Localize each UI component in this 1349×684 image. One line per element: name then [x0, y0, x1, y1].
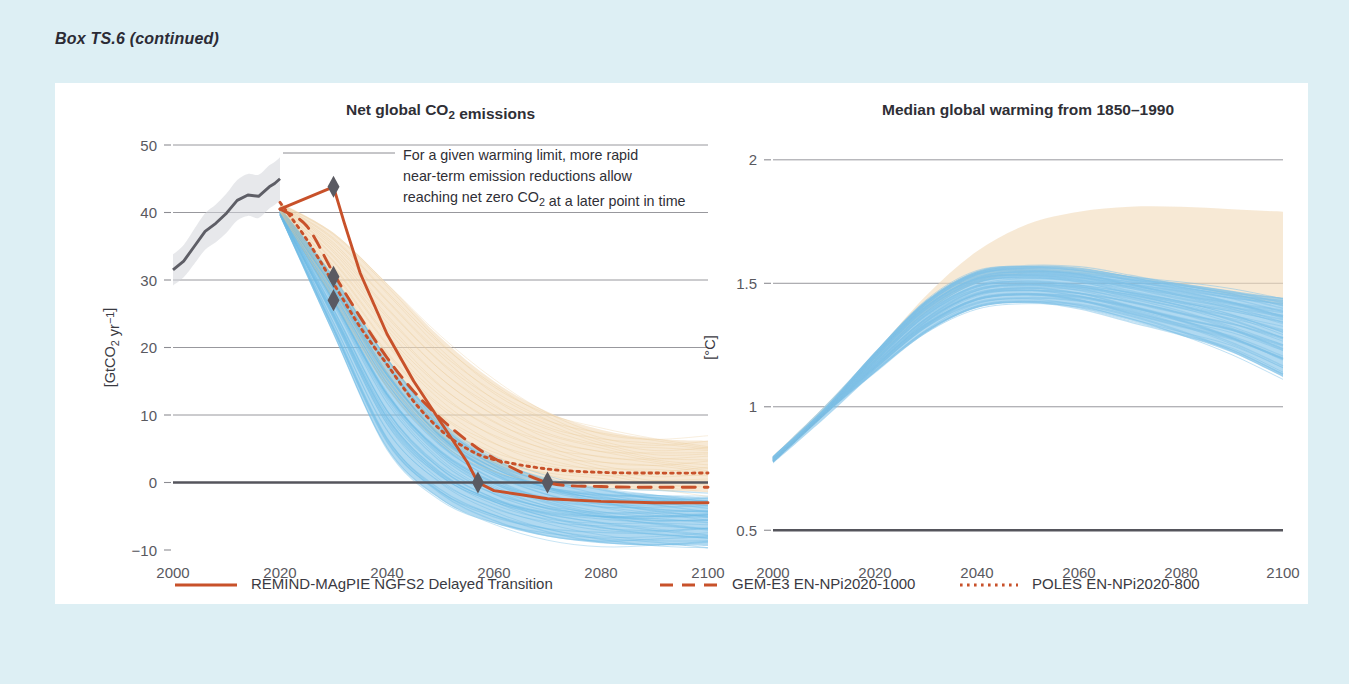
box-label: Box TS.6 (continued) [55, 30, 219, 48]
legend: REMIND-MAgPIE NGFS2 Delayed TransitionGE… [175, 575, 1200, 592]
figure-svg: Net global CO2 emissions−100102030405020… [55, 83, 1308, 604]
chart-title: Net global CO2 emissions [346, 101, 535, 122]
x-tick-label: 2040 [960, 564, 993, 581]
y-tick-label: 40 [140, 204, 157, 221]
warming-trajectory [773, 283, 1283, 458]
figure-panel: Net global CO2 emissions−100102030405020… [55, 83, 1308, 604]
net-zero-marker [328, 176, 340, 198]
x-tick-label: 2080 [584, 564, 617, 581]
annotation-line: near-term emission reductions allow [403, 168, 633, 184]
y-tick-label: 0 [149, 474, 157, 491]
historical-uncertainty-band [173, 157, 280, 285]
legend-label: GEM-E3 EN-NPi2020-1000 [732, 575, 915, 592]
annotation-line: reaching net zero CO2 at a later point i… [403, 189, 686, 209]
y-tick-label: 20 [140, 339, 157, 356]
legend-label: REMIND-MAgPIE NGFS2 Delayed Transition [251, 575, 553, 592]
x-tick-label: 2100 [1266, 564, 1299, 581]
y-axis-title: [GtCO2 yr−1] [101, 308, 122, 388]
y-tick-label: 30 [140, 272, 157, 289]
y-tick-label: 10 [140, 407, 157, 424]
y-tick-label: −10 [132, 542, 157, 559]
y-tick-label: 1 [749, 398, 757, 415]
y-tick-label: 2 [749, 151, 757, 168]
chart-title: Median global warming from 1850–1990 [882, 101, 1174, 118]
y-tick-label: 50 [140, 137, 157, 154]
annotation-group: For a given warming limit, more rapidnea… [283, 147, 686, 209]
x-tick-label: 2000 [156, 564, 189, 581]
x-tick-label: 2100 [691, 564, 724, 581]
chart-median-global-warming: Median global warming from 1850–19900.51… [702, 101, 1300, 581]
y-axis-title: [°C] [702, 335, 718, 359]
annotation-line: For a given warming limit, more rapid [403, 147, 638, 163]
y-tick-label: 1.5 [736, 275, 757, 292]
legend-label: POLES EN-NPi2020-800 [1032, 575, 1200, 592]
y-tick-label: 0.5 [736, 522, 757, 539]
